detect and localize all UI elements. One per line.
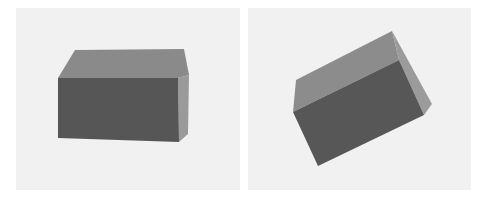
boxes-illustration xyxy=(0,0,487,198)
box-right xyxy=(293,31,432,166)
box-left-side-face xyxy=(178,75,189,142)
box-left-top-face xyxy=(58,49,189,78)
box-left-front-face xyxy=(58,78,179,142)
box-left xyxy=(58,49,189,142)
